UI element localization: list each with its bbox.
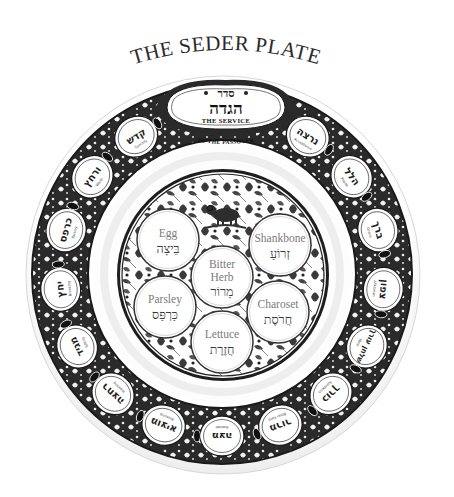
item-english-label-line2: Herb [211, 271, 234, 283]
star-ornament-icon [244, 91, 248, 95]
item-english-label-line1: Bitter [209, 258, 235, 270]
seder-plate-illustration: THE SEDER PLATE נרצהAcceptanceהללPraiseב… [0, 0, 454, 497]
plate-item-shankbone: Shankbone זְרוֹעַ [249, 214, 311, 276]
joiner-ornament-icon [194, 430, 201, 442]
rim-step-hebrew: צפון [377, 279, 390, 300]
plate-item-parsley: Parsley כַּרְפַּס [134, 276, 196, 338]
plate-item-lettuce: Lettuce חֲזֶרֶת [191, 311, 253, 373]
item-hebrew-label: חֲרֹסֶת [264, 312, 292, 327]
item-hebrew-label: מָרוֹר [211, 284, 234, 299]
item-english-label: Charoset [258, 298, 300, 310]
item-english-label: Shankbone [254, 232, 305, 244]
cartouche-english-main: THE SERVICE [202, 117, 250, 124]
item-hebrew-label: חֲזֶרֶת [210, 342, 235, 357]
plate-item-bitter-herb: Bitter Herb מָרוֹר [191, 246, 253, 308]
item-english-label: Lettuce [205, 328, 239, 340]
plate-item-egg: Egg בֵּיצָה [137, 209, 199, 271]
plate-item-charoset: Charoset חֲרֹסֶת [247, 281, 309, 343]
item-english-label: Egg [159, 227, 178, 240]
page-title: THE SEDER PLATE [128, 31, 324, 69]
rim-step-hebrew: יחץ [54, 281, 67, 298]
rim-step-english: Matzah [216, 425, 229, 429]
item-hebrew-label: כַּרְפַּס [152, 307, 178, 322]
rim-step-hebrew: מצה [212, 431, 233, 442]
item-hebrew-label: זְרוֹעַ [270, 246, 290, 261]
item-hebrew-label: בֵּיצָה [156, 241, 179, 256]
star-ornament-icon [204, 91, 208, 95]
item-english-label: Parsley [148, 293, 182, 306]
cartouche-hebrew-main: הגדה [209, 98, 242, 118]
